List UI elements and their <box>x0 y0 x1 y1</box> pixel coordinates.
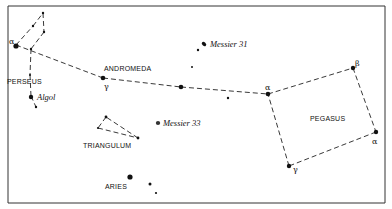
star <box>42 12 44 14</box>
label-perseus: PERSEUS <box>7 78 42 85</box>
star-aries-alpha <box>127 174 132 179</box>
star-pegasus-alpha <box>374 130 378 134</box>
star <box>137 137 140 140</box>
star-andromeda-gamma <box>101 76 106 81</box>
star-pegasus-gamma <box>287 164 291 168</box>
star-chart: PERSEUS ANDROMEDA TRIANGULUM ARIES PEGAS… <box>0 0 392 209</box>
star-andromeda-alpha <box>266 92 271 97</box>
label-pegasus: PEGASUS <box>310 115 345 122</box>
star-andromeda-beta <box>179 85 184 90</box>
label-m31: Messier 31 <box>209 39 248 49</box>
greek-pegasus-gamma: γ <box>293 165 298 174</box>
greek-perseus-alpha: α <box>9 37 15 46</box>
star-algol <box>29 95 33 99</box>
star <box>197 49 199 51</box>
star <box>30 48 32 50</box>
star <box>105 116 108 119</box>
label-algol: Algol <box>36 92 56 102</box>
stars <box>13 12 378 194</box>
label-aries: ARIES <box>105 183 127 190</box>
chart-frame <box>8 6 385 203</box>
greek-andromeda-gamma: γ <box>104 82 109 91</box>
greek-andromeda-alpha: α <box>265 83 271 92</box>
star <box>32 25 34 27</box>
star <box>97 127 99 129</box>
greek-pegasus-alpha: α <box>372 137 378 146</box>
label-triangulum: TRIANGULUM <box>83 142 131 149</box>
star <box>43 31 45 33</box>
label-andromeda: ANDROMEDA <box>104 65 151 72</box>
label-m33: Messier 33 <box>162 118 201 128</box>
star <box>149 183 152 186</box>
star <box>155 192 157 194</box>
triangulum-lines <box>98 117 138 138</box>
star <box>227 97 229 99</box>
galaxy-m33-icon <box>156 121 160 125</box>
star <box>29 74 31 76</box>
star <box>35 106 37 108</box>
galaxy-m31-icon <box>201 41 207 47</box>
greek-pegasus-beta: β <box>355 59 360 68</box>
star <box>191 66 193 68</box>
